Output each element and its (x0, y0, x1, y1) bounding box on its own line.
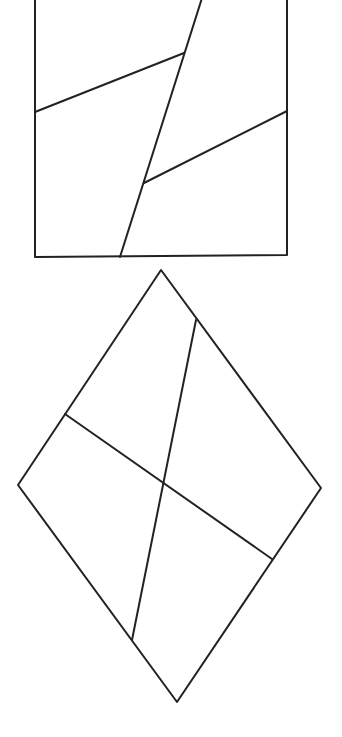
square-lower-right-cut (144, 111, 287, 183)
diamond-cross-cut (65, 414, 272, 559)
square-diagonal-cut (120, 0, 202, 257)
diagram-canvas (0, 0, 342, 737)
square-upper-left-cut (35, 53, 184, 112)
geometry-diagram (0, 0, 342, 737)
diamond-long-cut (132, 320, 196, 640)
diamond-figure (18, 270, 321, 702)
square-figure (35, 0, 287, 257)
